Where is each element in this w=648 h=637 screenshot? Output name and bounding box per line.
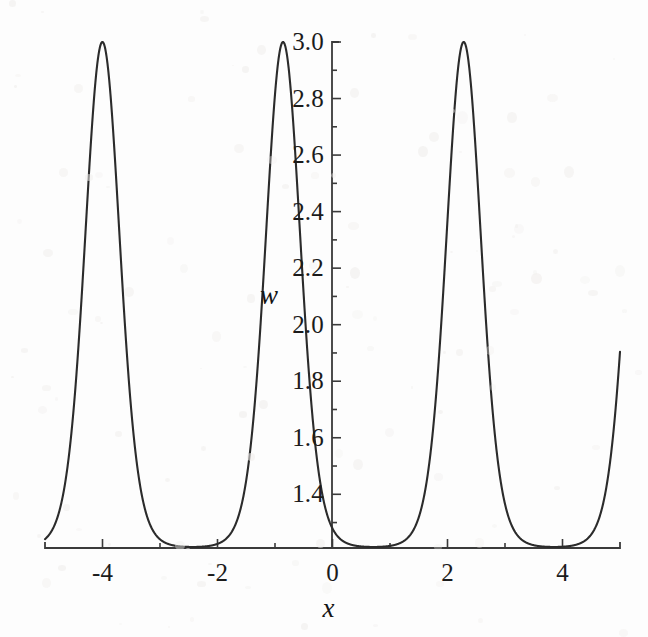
axes-group <box>45 42 620 548</box>
y-tick-label: 1.6 <box>258 425 324 450</box>
y-tick-label: 1.8 <box>258 368 324 393</box>
x-tick-label: -4 <box>81 560 125 585</box>
y-tick-label: 1.4 <box>258 481 324 506</box>
x-tick-label: 0 <box>311 560 355 585</box>
y-axis-ticks <box>332 42 341 523</box>
y-tick-label: 2.0 <box>258 312 324 337</box>
y-tick-label: 2.2 <box>258 255 324 280</box>
y-axis-label: w <box>260 282 278 309</box>
x-tick-label: 2 <box>426 560 470 585</box>
plot-canvas <box>0 0 648 637</box>
y-axis-line <box>332 42 339 548</box>
x-axis-ticks <box>103 539 563 548</box>
x-tick-label: -2 <box>196 560 240 585</box>
y-tick-label: 2.8 <box>258 86 324 111</box>
y-tick-label: 2.6 <box>258 142 324 167</box>
x-tick-label: 4 <box>541 560 585 585</box>
plot-figure: -4-2024 1.41.61.82.02.22.42.62.83.0 x w <box>0 0 648 637</box>
y-tick-label: 2.4 <box>258 199 324 224</box>
x-axis-label: x <box>323 595 335 622</box>
y-tick-label: 3.0 <box>258 29 324 54</box>
